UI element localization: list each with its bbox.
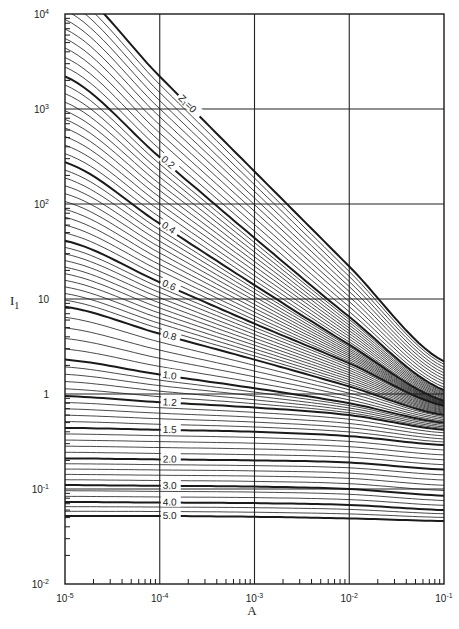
curve-label: 3.0 xyxy=(163,480,177,491)
y-tick-label: 104 xyxy=(34,8,49,20)
x-tick-label: 10-4 xyxy=(151,592,168,604)
y-tick-label: 10-2 xyxy=(32,578,49,590)
y-axis-title: I1 xyxy=(10,293,19,311)
y-tick-label: 103 xyxy=(34,103,49,115)
curve-label: 5.0 xyxy=(163,510,177,521)
x-tick-label: 10-1 xyxy=(435,592,452,604)
curve-label: 1.0 xyxy=(162,369,178,382)
y-tick-label: 1 xyxy=(43,389,49,400)
grid xyxy=(65,14,444,584)
x-axis-title: A xyxy=(247,603,257,618)
chart: Z₁=00.20.40.60.81.01.21.52.03.04.05.0 10… xyxy=(0,0,459,629)
curve-label: 1.5 xyxy=(163,424,178,435)
curve-label: 2.0 xyxy=(163,453,177,464)
curve-labels: Z₁=00.20.40.60.81.01.21.52.03.04.05.0 xyxy=(158,90,204,521)
x-tick-label: 10-2 xyxy=(341,592,358,604)
curve-label: 4.0 xyxy=(163,497,177,508)
y-tick-labels: 10410310210110-110-2 xyxy=(32,8,50,590)
y-tick-label: 10 xyxy=(38,294,50,305)
y-axis-title-sub: 1 xyxy=(14,300,19,311)
x-tick-label: 10-5 xyxy=(56,592,73,604)
y-tick-label: 102 xyxy=(34,198,49,210)
curve-label: 1.2 xyxy=(162,396,177,408)
y-tick-label: 10-1 xyxy=(32,483,49,495)
